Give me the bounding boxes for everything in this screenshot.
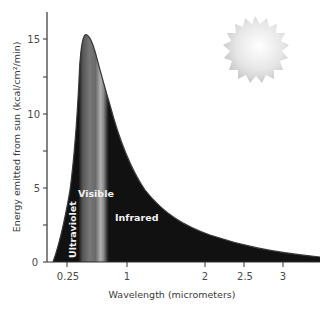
x-tick-2: 2 <box>202 271 208 282</box>
solar-spectrum-chart: 0 5 10 15 0.25 1 2 2.5 3 Wavelength (mic… <box>0 0 327 309</box>
infrared-label: Infrared <box>115 212 158 223</box>
y-tick-15: 15 <box>27 34 40 45</box>
sun-icon <box>223 16 289 83</box>
y-tick-0: 0 <box>32 257 38 268</box>
x-tick-3: 3 <box>280 271 286 282</box>
x-tick-0-25: 0.25 <box>57 271 79 282</box>
y-axis-title: Energy emitted from sun (kcal/cm²/min) <box>11 42 22 233</box>
visible-label: Visible <box>78 188 114 199</box>
y-tick-5: 5 <box>34 183 40 194</box>
x-axis: 0.25 1 2 2.5 3 <box>47 262 320 282</box>
ultraviolet-label: Ultraviolet <box>67 201 78 258</box>
y-tick-10: 10 <box>27 109 40 120</box>
x-tick-1: 1 <box>124 271 130 282</box>
visible-band <box>79 30 109 262</box>
x-tick-2-5: 2.5 <box>237 271 253 282</box>
y-axis: 0 5 10 15 <box>27 12 47 268</box>
x-axis-title: Wavelength (micrometers) <box>109 289 236 300</box>
